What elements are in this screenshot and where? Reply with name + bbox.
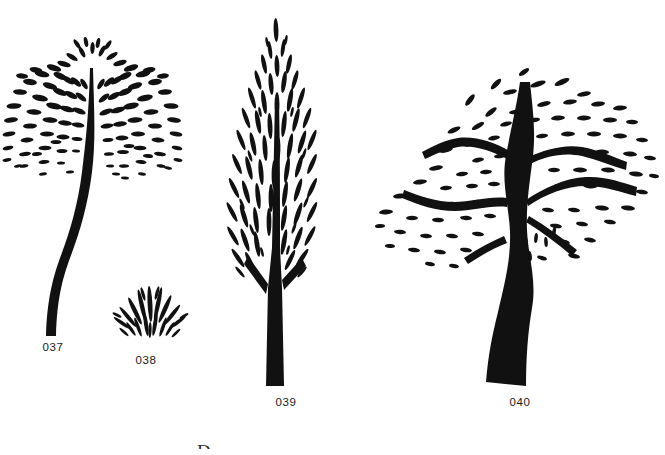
figure-caption-037: 037 (38, 341, 68, 353)
broad-tree-branch-right-upper (528, 146, 627, 170)
figure-caption-038: 038 (131, 354, 161, 366)
broad-tree-branch-left-lower (402, 190, 507, 211)
shrub-drawing (112, 282, 190, 342)
partial-bottom-mark: D (197, 442, 211, 449)
cypress-drawing (222, 8, 342, 393)
figure-caption-039: 039 (270, 396, 302, 408)
illustration-plate: 037 (0, 0, 665, 455)
figure-039 (222, 8, 342, 393)
broad-tree-trunk (486, 82, 534, 386)
cypress-lower-branch-right (282, 258, 306, 290)
figure-caption-040: 040 (503, 396, 537, 408)
broad-tree-branch-right-mid (526, 177, 637, 206)
broad-tree-branch-right-lower (526, 216, 577, 256)
cypress-foliage-group (225, 18, 319, 278)
cypress-trunk (266, 98, 284, 386)
figure-040 (378, 60, 658, 395)
figure-038 (112, 282, 190, 342)
broad-tree-drawing (378, 60, 658, 395)
shrub-blades-group (112, 286, 189, 338)
broad-tree-trunk-group (402, 82, 637, 386)
